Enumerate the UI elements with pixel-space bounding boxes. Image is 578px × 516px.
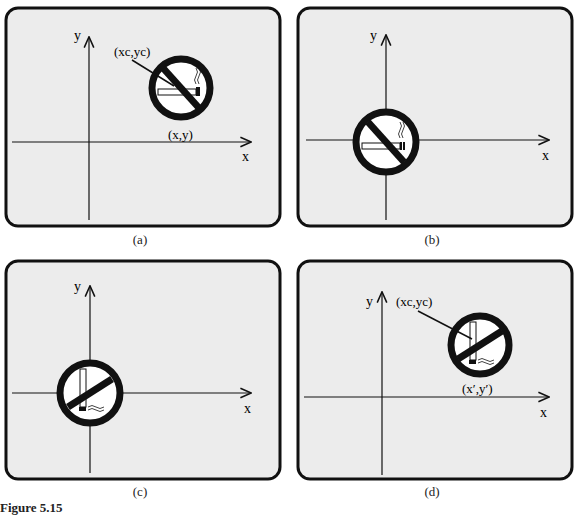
annotation-point: (x,y) <box>168 127 193 142</box>
y-axis-label: y <box>370 28 377 43</box>
figure-caption: Figure 5.15 <box>0 500 63 516</box>
y-axis-label: y <box>74 279 81 294</box>
x-axis-label: x <box>244 401 251 416</box>
x-axis-label: x <box>242 149 249 164</box>
y-axis-label: y <box>74 28 81 43</box>
annotation-center: (xc,yc) <box>114 44 150 59</box>
no-smoking-sign-icon <box>356 112 416 172</box>
panel-d-label: (d) <box>412 484 452 500</box>
panel-c-label: (c) <box>120 484 160 500</box>
annotation-point: (x′,y′) <box>462 381 493 396</box>
panel-a: y x (xc,yc) (x,y) <box>4 6 282 228</box>
panel-b-label: (b) <box>412 232 452 248</box>
panel-b: y x <box>296 6 574 228</box>
no-smoking-sign-icon <box>60 363 120 423</box>
x-axis-label: x <box>540 405 547 420</box>
annotation-center: (xc,yc) <box>396 294 432 309</box>
panel-a-label: (a) <box>120 232 160 248</box>
panel-d: y x (xc,yc) (x′,y′) <box>296 259 574 481</box>
no-smoking-sign-icon <box>451 316 509 374</box>
panel-c: y x <box>4 259 282 481</box>
x-axis-label: x <box>542 148 549 163</box>
no-smoking-sign-icon <box>152 59 210 117</box>
y-axis-label: y <box>366 294 373 309</box>
